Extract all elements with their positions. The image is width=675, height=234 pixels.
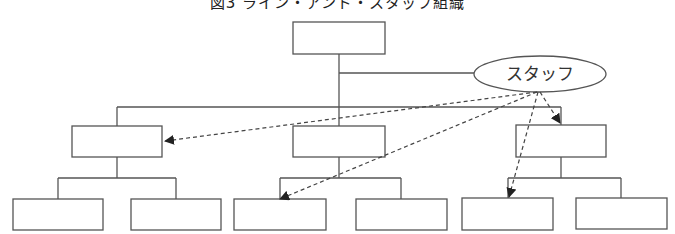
level3-box-5 <box>462 198 553 230</box>
staff-label: スタッフ <box>506 64 574 84</box>
level2-box-center <box>293 126 385 157</box>
level3-box-6 <box>576 198 667 229</box>
level3-box-2 <box>131 199 221 230</box>
staff-node: スタッフ <box>474 56 606 92</box>
level2-box-right <box>516 125 606 157</box>
level2-box-left <box>72 126 162 157</box>
level3-box-1 <box>13 199 103 230</box>
level3-box-3 <box>234 199 326 230</box>
level3-box-4 <box>356 199 447 230</box>
org-chart: スタッフ <box>0 0 675 234</box>
top-manager-box <box>293 22 385 54</box>
